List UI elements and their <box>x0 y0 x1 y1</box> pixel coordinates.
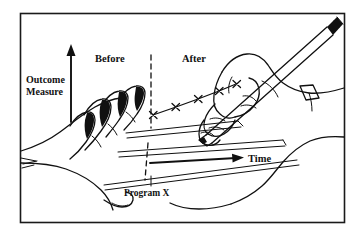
intervention-label: Program X <box>124 188 170 198</box>
y-axis-label-line1: Outcome <box>26 74 65 85</box>
illustration-figure: Outcome Measure Before After Time Progra… <box>0 0 362 236</box>
before-label: Before <box>95 53 125 64</box>
y-axis-label-line2: Measure <box>26 86 64 97</box>
figure-background <box>0 0 362 236</box>
after-label: After <box>182 53 206 64</box>
illustration-canvas: Outcome Measure Before After Time Progra… <box>0 0 362 236</box>
x-axis-label: Time <box>248 153 271 164</box>
